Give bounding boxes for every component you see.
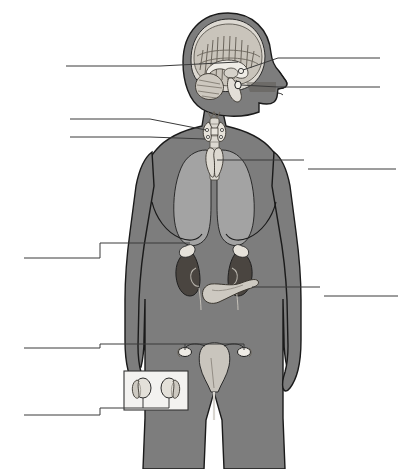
pineal-gland bbox=[238, 68, 243, 73]
anatomy-diagram-canvas bbox=[0, 0, 415, 469]
thyroid-isthmus bbox=[211, 128, 218, 135]
epididymis-right bbox=[173, 380, 180, 398]
parathyroid-lower-left bbox=[206, 135, 209, 138]
endocrine-system-figure bbox=[0, 0, 415, 469]
pituitary-gland bbox=[235, 81, 241, 89]
thalamus bbox=[224, 68, 238, 78]
parathyroid-upper-right bbox=[220, 128, 223, 131]
parathyroid-lower-right bbox=[219, 135, 222, 138]
testes-inset-box bbox=[124, 371, 188, 410]
epididymis-left bbox=[132, 380, 139, 398]
